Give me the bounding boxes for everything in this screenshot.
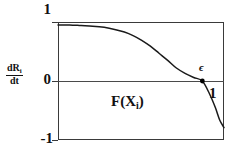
y-axis-title-denominator: dt: [6, 76, 23, 87]
x-tick-label-one: 1: [209, 85, 217, 102]
y-axis-numerator-subscript: i: [20, 67, 22, 75]
zero-baseline: [58, 81, 224, 82]
y-axis-title: dRi dt: [6, 63, 23, 87]
curve-label-tail: ): [139, 93, 144, 109]
y-axis-numerator-text: dR: [7, 62, 20, 73]
epsilon-annotation-label: ϵ: [199, 61, 204, 73]
chart-figure: 1 0 -1 dRi dt F(Xi) ϵ 1: [0, 0, 240, 163]
y-tick-mark-upper: [52, 22, 58, 23]
curve-label-head: F(X: [111, 93, 136, 109]
y-tick-mark-zero: [52, 81, 58, 82]
curve-label: F(Xi): [111, 93, 144, 111]
y-axis-title-numerator: dRi: [6, 63, 23, 76]
y-tick-label-zero: 0: [44, 72, 52, 87]
y-tick-label-lower: -1: [41, 131, 54, 146]
y-tick-label-upper: 1: [44, 2, 52, 17]
